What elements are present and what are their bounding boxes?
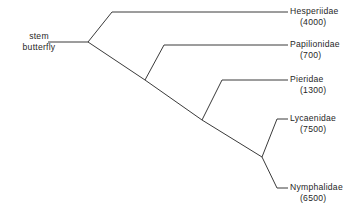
tip-label-hesperiidae: Hesperiidae (4000) [290,6,339,27]
tip-name-pieridae: Pieridae [290,74,326,85]
tip-name-nymphalidae: Nymphalidae [290,182,343,193]
tip-count-hesperiidae: (4000) [290,17,339,28]
tip-name-hesperiidae: Hesperiidae [290,6,339,17]
branch-node3-to-node4 [202,120,262,157]
branch-node2-to-node3 [145,80,202,120]
root-label-line-2: butterfly [6,42,72,53]
root-label: stem butterfly [6,31,72,52]
branch-pieridae [202,80,288,120]
tip-name-papilionidae: Papilionidae [290,39,340,50]
tip-count-papilionidae: (700) [290,50,340,61]
branch-papilionidae [145,45,288,80]
tip-count-pieridae: (1300) [290,85,326,96]
tip-label-nymphalidae: Nymphalidae (6500) [290,182,343,203]
root-label-line-1: stem [6,31,72,42]
tip-name-lycaenidae: Lycaenidae [290,113,336,124]
branch-node1-to-node2 [88,42,145,80]
tip-label-pieridae: Pieridae (1300) [290,74,326,95]
branch-hesperiidae [88,12,288,42]
tip-count-nymphalidae: (6500) [290,193,343,204]
cladogram-figure: stem butterfly Hesperiidae (4000) Papili… [0,0,353,212]
tip-count-lycaenidae: (7500) [290,124,336,135]
tip-label-lycaenidae: Lycaenidae (7500) [290,113,336,134]
tip-label-papilionidae: Papilionidae (700) [290,39,340,60]
branch-lycaenidae [262,119,288,157]
branch-nymphalidae [262,157,288,188]
